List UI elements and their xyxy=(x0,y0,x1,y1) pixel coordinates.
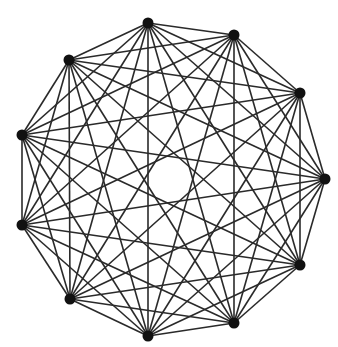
graph-edge xyxy=(22,60,69,225)
graph-vertex xyxy=(65,294,76,305)
graph-vertices xyxy=(17,18,331,342)
graph-edge xyxy=(70,23,148,299)
graph-edge xyxy=(148,23,234,323)
complete-graph-diagram xyxy=(0,0,338,347)
graph-edge xyxy=(22,225,148,336)
graph-vertex xyxy=(229,30,240,41)
graph-vertex xyxy=(229,318,240,329)
graph-vertex xyxy=(320,174,331,185)
graph-vertex xyxy=(295,88,306,99)
graph-vertex xyxy=(17,220,28,231)
graph-edge xyxy=(148,35,234,336)
graph-vertex xyxy=(143,331,154,342)
graph-vertex xyxy=(143,18,154,29)
graph-edge xyxy=(300,93,325,179)
graph-vertex xyxy=(295,260,306,271)
graph-edge xyxy=(69,60,70,299)
graph-edge xyxy=(22,93,300,135)
graph-vertex xyxy=(17,130,28,141)
graph-edge xyxy=(69,60,300,265)
graph-edge xyxy=(22,179,325,225)
graph-edges xyxy=(22,23,325,336)
graph-vertex xyxy=(64,55,75,66)
graph-edge xyxy=(300,179,325,265)
